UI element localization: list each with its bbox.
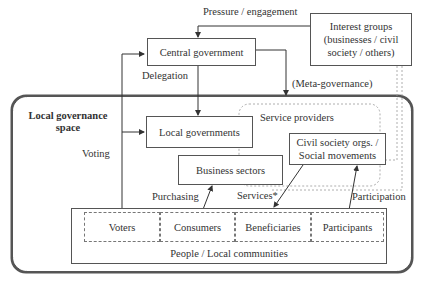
civil-society-line2: Social movements (299, 149, 376, 162)
local-governments-label: Local governments (159, 126, 240, 139)
civil-society-box: Civil society orgs. / Social movements (289, 133, 386, 165)
voting-label: Voting (82, 148, 110, 160)
business-sectors-label: Business sectors (196, 164, 265, 177)
role-beneficiaries: Beneficiaries (235, 212, 311, 242)
people-label: People / Local communities (170, 247, 288, 260)
interest-groups-line3: society / others) (327, 46, 394, 59)
central-government-label: Central government (160, 46, 244, 59)
services-label: Services* (237, 190, 278, 202)
role-voters-label: Voters (109, 222, 136, 233)
role-beneficiaries-label: Beneficiaries (245, 222, 300, 233)
meta-governance-label: (Meta-governance) (292, 78, 372, 90)
delegation-label: Delegation (142, 70, 188, 82)
meta-governance-arrow (256, 50, 286, 95)
local-governments-box: Local governments (146, 116, 253, 148)
interest-groups-link-dotted-2 (385, 66, 397, 160)
pressure-label: Pressure / engagement (203, 6, 297, 18)
local-governance-space-title: Local governance space (28, 110, 108, 134)
interest-groups-line2: (businesses / civil (324, 33, 399, 46)
pressure-arrow (198, 26, 310, 37)
role-consumers: Consumers (160, 212, 235, 242)
participation-label: Participation (352, 191, 406, 203)
central-government-box: Central government (147, 38, 256, 66)
space-title-line1: Local governance (28, 110, 108, 122)
business-sectors-box: Business sectors (178, 155, 283, 185)
role-participants: Participants (311, 212, 384, 242)
role-participants-label: Participants (323, 222, 373, 233)
civil-society-line1: Civil society orgs. / (296, 136, 378, 149)
interest-groups-box: Interest groups (businesses / civil soci… (310, 13, 412, 66)
purchasing-label: Purchasing (152, 191, 199, 203)
role-voters: Voters (84, 212, 160, 242)
participation-arrow (349, 166, 357, 210)
space-title-line2: space (28, 122, 108, 134)
service-providers-label: Service providers (260, 112, 334, 124)
role-consumers-label: Consumers (174, 222, 221, 233)
interest-groups-line1: Interest groups (330, 20, 393, 33)
